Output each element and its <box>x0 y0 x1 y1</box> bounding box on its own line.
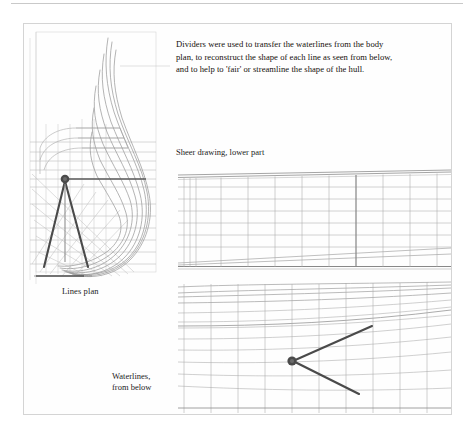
book-page: Lines plan Dividers were used to transfe… <box>0 0 475 444</box>
waterlines-figure <box>176 282 453 415</box>
caption-text: Dividers were used to transfer the water… <box>176 38 444 76</box>
page-top-rule <box>11 3 463 4</box>
dividers-tool-lines-plan <box>44 175 88 267</box>
caption-line-3: and to help to 'fair' or streamline the … <box>176 63 444 76</box>
caption-line-1: Dividers were used to transfer the water… <box>176 38 444 51</box>
sheer-drawing-figure <box>176 168 453 271</box>
lines-plan-label: Lines plan <box>62 286 99 296</box>
sheer-drawing-label: Sheer drawing, lower part <box>176 147 264 157</box>
waterlines-label-line-2: from below <box>112 382 151 393</box>
lines-plan-figure: Lines plan <box>24 24 176 324</box>
waterlines-label-line-1: Waterlines, <box>112 371 151 382</box>
waterlines-label: Waterlines, from below <box>112 371 151 394</box>
illustration-frame: Lines plan Dividers were used to transfe… <box>23 23 452 415</box>
caption-line-2: plan, to reconstruct the shape of each l… <box>176 51 444 64</box>
